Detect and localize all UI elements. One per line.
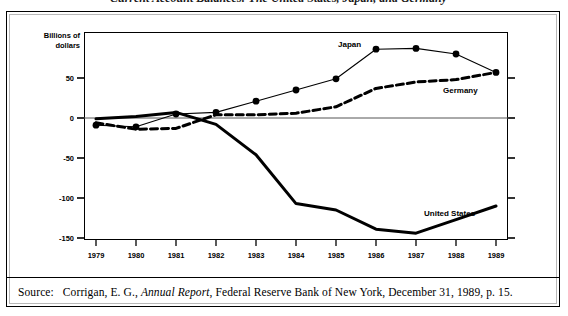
figure-container: Current Account Balances: The United Sta… bbox=[0, 0, 568, 316]
source-italic-title: Annual Report bbox=[141, 286, 210, 298]
source-divider bbox=[7, 277, 559, 278]
chart-drawing-layer bbox=[0, 0, 568, 316]
source-part1: Corrigan, E. G., bbox=[63, 286, 138, 298]
data-series-lines bbox=[96, 48, 496, 233]
source-label: Source: bbox=[18, 286, 54, 298]
source-part2: , Federal Reserve Bank of New York, Dece… bbox=[210, 286, 513, 298]
source-note: Source:Corrigan, E. G., Annual Report, F… bbox=[18, 286, 548, 298]
data-point-markers bbox=[93, 45, 500, 130]
